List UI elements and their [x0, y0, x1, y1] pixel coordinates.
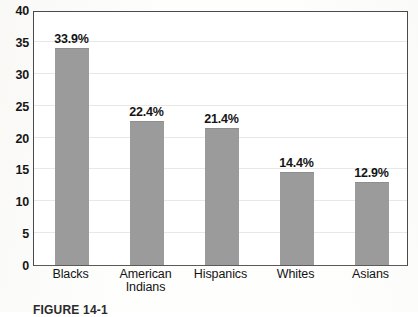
x-axis-tick: Whites	[258, 268, 333, 281]
bar	[280, 172, 314, 265]
bar-group: 12.9%	[334, 12, 409, 265]
bar	[355, 182, 389, 265]
x-axis-tick: Blacks	[33, 268, 108, 281]
x-axis-tick-label: Hispanics	[183, 268, 258, 281]
x-axis-tick: Asians	[333, 268, 408, 281]
x-axis-tick-label: Asians	[333, 268, 408, 281]
bar	[205, 128, 239, 265]
y-axis-tick-label: 5	[3, 228, 29, 241]
x-axis-tick-label: Whites	[258, 268, 333, 281]
bar	[55, 48, 89, 265]
plot-area: 33.9%22.4%21.4%14.4%12.9%	[33, 11, 408, 266]
bar	[130, 121, 164, 265]
x-axis-tick-label: Blacks	[33, 268, 108, 281]
bar-value-label: 12.9%	[354, 166, 388, 180]
x-axis: BlacksAmericanIndiansHispanicsWhitesAsia…	[33, 268, 408, 300]
bar-value-label: 14.4%	[279, 156, 313, 170]
bar-group: 21.4%	[184, 12, 259, 265]
bar-group: 33.9%	[34, 12, 109, 265]
x-axis-tick-label: Indians	[108, 281, 183, 294]
y-axis-tick-label: 40	[3, 5, 29, 18]
y-axis: 0510152025303540	[0, 11, 29, 266]
bar-group: 14.4%	[259, 12, 334, 265]
y-axis-tick-label: 0	[3, 260, 29, 273]
y-axis-tick-label: 15	[3, 164, 29, 177]
y-axis-tick-label: 20	[3, 132, 29, 145]
y-axis-tick-label: 30	[3, 69, 29, 82]
bar-group: 22.4%	[109, 12, 184, 265]
x-axis-tick: AmericanIndians	[108, 268, 183, 294]
x-axis-tick: Hispanics	[183, 268, 258, 281]
y-axis-tick-label: 35	[3, 37, 29, 50]
bar-value-label: 22.4%	[129, 105, 163, 119]
bar-value-label: 33.9%	[54, 32, 88, 46]
figure-caption: FIGURE 14-1	[33, 303, 108, 317]
bar-value-label: 21.4%	[204, 112, 238, 126]
y-axis-tick-label: 10	[3, 196, 29, 209]
y-axis-tick-label: 25	[3, 100, 29, 113]
